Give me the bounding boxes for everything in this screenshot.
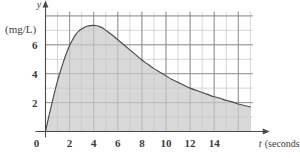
y-tick-label-2: 2 [32,97,38,109]
x-tick-label-4: 4 [91,137,97,149]
x-tick-label-6: 6 [115,137,121,149]
y-axis-name: y [36,0,42,10]
x-axis-unit-label: (seconds) [265,138,300,150]
y-tick-label-4: 4 [32,68,38,80]
x-tick-label-14: 14 [209,137,221,149]
x-tick-label-2: 2 [67,137,73,149]
y-tick-label-6: 6 [32,39,38,51]
concentration-time-chart: 24681012142460 y(mg/L)t(seconds) [0,0,300,158]
x-tick-label-12: 12 [185,137,197,149]
origin-label: 0 [34,137,40,149]
chart-figure: 24681012142460 y(mg/L)t(seconds) [0,0,300,158]
y-axis-unit-label: (mg/L) [5,23,36,36]
x-tick-label-8: 8 [139,137,145,149]
x-axis-name: t [259,138,262,149]
x-tick-label-10: 10 [161,137,173,149]
